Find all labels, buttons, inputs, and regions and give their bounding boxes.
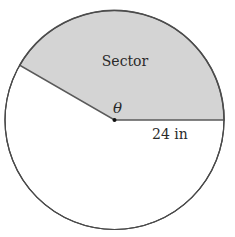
circle-sector-diagram: Sector θ 24 in xyxy=(0,0,235,237)
center-point xyxy=(113,118,117,122)
angle-theta-label: θ xyxy=(113,99,122,117)
sector-label: Sector xyxy=(102,53,149,69)
radius-length-label: 24 in xyxy=(152,126,188,142)
